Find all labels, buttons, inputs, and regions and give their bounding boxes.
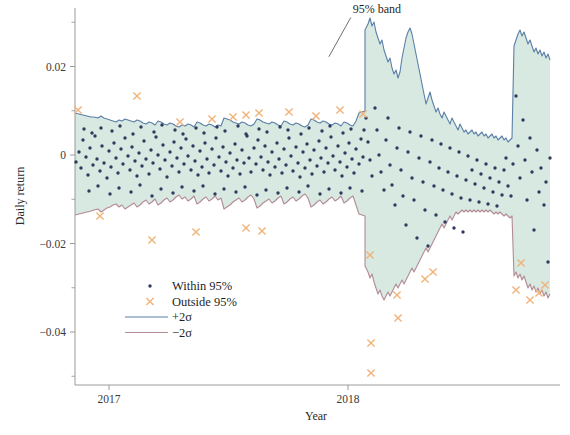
- data-point-within: [347, 141, 350, 144]
- data-point-within: [291, 169, 294, 172]
- data-point-within: [163, 158, 166, 161]
- data-point-within: [327, 187, 330, 190]
- data-point-within: [139, 125, 142, 128]
- data-point-within: [130, 145, 133, 148]
- data-point-within: [226, 174, 229, 177]
- data-point-within: [160, 123, 163, 126]
- data-point-within: [421, 180, 424, 183]
- data-point-within: [544, 180, 547, 183]
- data-point-within: [126, 154, 129, 157]
- data-point-within: [95, 157, 98, 160]
- data-point-within: [100, 144, 103, 147]
- data-point-within: [473, 182, 476, 185]
- data-point-within: [121, 162, 124, 165]
- data-point-within: [224, 160, 227, 163]
- data-point-within: [516, 144, 519, 147]
- data-point-within: [114, 156, 117, 159]
- data-point-within: [401, 194, 404, 197]
- data-point-within: [426, 244, 429, 247]
- data-point-within: [96, 184, 99, 187]
- data-point-within: [331, 154, 334, 157]
- data-point-within: [118, 124, 121, 127]
- data-point-within: [257, 127, 260, 130]
- data-point-within: [495, 204, 498, 207]
- data-point-within: [286, 128, 289, 131]
- data-point-within: [382, 188, 385, 191]
- legend-entry-label: −2σ: [172, 326, 192, 340]
- data-point-within: [439, 142, 442, 145]
- data-point-within: [521, 118, 524, 121]
- data-point-within: [98, 169, 101, 172]
- data-point-within: [99, 126, 102, 129]
- data-point-within: [182, 162, 185, 165]
- data-point-within: [200, 165, 203, 168]
- data-point-within: [270, 150, 273, 153]
- data-point-within: [198, 149, 201, 152]
- data-point-within: [464, 178, 467, 181]
- data-point-within: [205, 157, 208, 160]
- data-point-within: [333, 168, 336, 171]
- data-point-within: [340, 174, 343, 177]
- data-point-within: [235, 158, 238, 161]
- data-point-within: [223, 129, 226, 132]
- data-point-within: [298, 175, 301, 178]
- data-point-within: [88, 146, 91, 149]
- data-point-within: [234, 190, 237, 193]
- data-point-within: [91, 163, 94, 166]
- data-point-within: [261, 168, 264, 171]
- data-point-within: [349, 127, 352, 130]
- data-point-within: [475, 158, 478, 161]
- data-point-within: [359, 137, 362, 140]
- data-point-within: [528, 136, 531, 139]
- data-point-within: [452, 226, 455, 229]
- data-point-within: [404, 223, 407, 226]
- data-point-within: [324, 146, 327, 149]
- data-point-within: [310, 172, 313, 175]
- data-point-within: [278, 125, 281, 128]
- data-point-within: [222, 187, 225, 190]
- data-point-within: [301, 150, 304, 153]
- data-point-within: [318, 192, 321, 195]
- data-point-within: [105, 176, 108, 179]
- data-point-within: [276, 191, 279, 194]
- data-point-within: [219, 169, 222, 172]
- data-point-within: [415, 236, 418, 239]
- data-point-within: [109, 165, 112, 168]
- data-point-within: [417, 156, 420, 159]
- data-point-within: [408, 130, 411, 133]
- data-point-within: [151, 161, 154, 164]
- data-point-within: [326, 161, 329, 164]
- data-point-within: [207, 171, 210, 174]
- legend-entry-label: +2σ: [172, 310, 192, 324]
- legend-entry-label: Outside 95%: [172, 295, 237, 309]
- data-point-within: [345, 165, 348, 168]
- y-tick-label: 0.02: [46, 61, 66, 73]
- data-point-within: [110, 129, 113, 132]
- data-point-within: [138, 183, 141, 186]
- data-point-within: [461, 230, 464, 233]
- data-point-within: [341, 131, 344, 134]
- data-point-within: [379, 170, 382, 173]
- data-point-within: [243, 185, 246, 188]
- data-point-within: [116, 171, 119, 174]
- data-point-within: [193, 159, 196, 162]
- data-point-within: [368, 158, 371, 161]
- data-point-within: [315, 164, 318, 167]
- data-point-within: [336, 144, 339, 147]
- data-point-within: [221, 145, 224, 148]
- data-point-within: [280, 171, 283, 174]
- data-point-within: [294, 145, 297, 148]
- data-point-within: [256, 138, 259, 141]
- data-point-within: [432, 184, 435, 187]
- data-point-within: [468, 198, 471, 201]
- data-point-within: [201, 184, 204, 187]
- data-point-within: [119, 147, 122, 150]
- data-point-within: [273, 165, 276, 168]
- data-point-within: [242, 161, 245, 164]
- chart-plot: 0.020−0.02−0.04 20172018 95% band Within…: [0, 0, 570, 435]
- data-point-within: [149, 148, 152, 151]
- data-point-within: [509, 194, 512, 197]
- data-point-within: [370, 174, 373, 177]
- data-point-within: [186, 154, 189, 157]
- data-point-within: [212, 163, 215, 166]
